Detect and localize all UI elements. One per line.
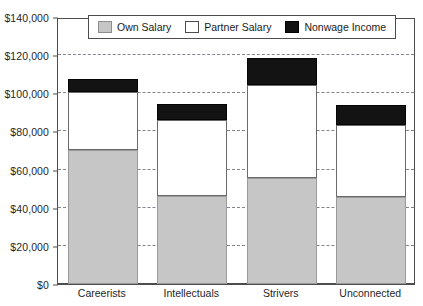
bar-segment-nonwage-income[interactable] <box>336 105 406 125</box>
bar-segment-nonwage-income[interactable] <box>247 58 317 85</box>
legend-item-own-salary[interactable]: Own Salary <box>98 21 171 33</box>
legend-item-partner-salary[interactable]: Partner Salary <box>185 21 271 33</box>
bar-group-careerists[interactable] <box>68 19 138 284</box>
x-axis-tick-label-careerists: Careerists <box>78 287 126 299</box>
bars-layer <box>58 19 414 284</box>
bar-group-intellectuals[interactable] <box>157 19 227 284</box>
bar-segment-own-salary[interactable] <box>157 196 227 284</box>
x-axis: CareeristsIntellectualsStriversUnconnect… <box>57 287 415 306</box>
bar-segment-partner-salary[interactable] <box>157 120 227 196</box>
bar-segment-partner-salary[interactable] <box>247 85 317 178</box>
y-axis-tick-label: $100,000 <box>4 88 49 100</box>
y-axis: $0$20,000$40,000$60,000$80,000$100,000$1… <box>0 18 53 285</box>
legend-swatch-own-salary <box>98 21 112 33</box>
bar-segment-partner-salary[interactable] <box>336 125 406 197</box>
x-axis-tick-label-intellectuals: Intellectuals <box>164 287 219 299</box>
bar-segment-own-salary[interactable] <box>68 150 138 284</box>
stacked-bar-chart: $0$20,000$40,000$60,000$80,000$100,000$1… <box>0 0 423 306</box>
y-axis-tick-label: $40,000 <box>10 203 49 215</box>
bar-group-strivers[interactable] <box>247 19 317 284</box>
bar-segment-own-salary[interactable] <box>336 197 406 284</box>
bar-segment-own-salary[interactable] <box>247 178 317 284</box>
y-axis-tick-label: $80,000 <box>10 126 49 138</box>
y-axis-tick-label: $120,000 <box>4 50 49 62</box>
y-axis-tick-label: $20,000 <box>10 241 49 253</box>
bar-group-unconnected[interactable] <box>336 19 406 284</box>
x-axis-tick-label-unconnected: Unconnected <box>339 287 401 299</box>
chart-legend: Own SalaryPartner SalaryNonwage Income <box>88 15 396 39</box>
legend-label-nonwage-income: Nonwage Income <box>304 21 386 33</box>
x-axis-tick-label-strivers: Strivers <box>263 287 299 299</box>
y-axis-tick-label: $60,000 <box>10 165 49 177</box>
legend-label-partner-salary: Partner Salary <box>204 21 271 33</box>
plot-area <box>57 18 415 285</box>
y-axis-tick-label: $140,000 <box>4 12 49 24</box>
bar-segment-partner-salary[interactable] <box>68 92 138 149</box>
legend-swatch-nonwage-income <box>285 21 299 33</box>
legend-item-nonwage-income[interactable]: Nonwage Income <box>285 21 386 33</box>
bar-segment-nonwage-income[interactable] <box>68 79 138 92</box>
legend-label-own-salary: Own Salary <box>117 21 171 33</box>
legend-swatch-partner-salary <box>185 21 199 33</box>
bar-segment-nonwage-income[interactable] <box>157 104 227 120</box>
y-axis-tick-label: $0 <box>37 279 49 291</box>
